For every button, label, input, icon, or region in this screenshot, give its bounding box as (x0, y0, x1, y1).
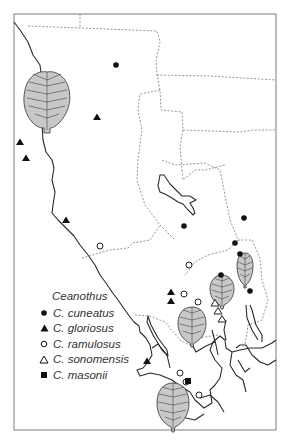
legend-item-cuneatus: C. cuneatus (38, 305, 129, 321)
leaf-icon-large-north (24, 72, 70, 133)
legend-label: C. ramulosus (53, 338, 121, 350)
gloriosus-point (62, 217, 70, 224)
gloriosus-point (16, 139, 24, 146)
ramulosus-point (177, 370, 183, 376)
legend-item-gloriosus: C. gloriosus (38, 321, 129, 337)
gloriosus-point (167, 289, 175, 296)
ramulosus-point (195, 299, 201, 305)
cuneatus-point (218, 272, 224, 278)
legend: Ceanothus C. cuneatus C. gloriosus C. ra… (38, 290, 129, 383)
legend-item-masonii: C. masonii (38, 367, 129, 383)
legend-label: C. cuneatus (53, 307, 114, 319)
leaf-icon-narrow (237, 253, 253, 288)
legend-item-sonomensis: C. sonomensis (38, 352, 129, 368)
legend-label: C. gloriosus (53, 322, 114, 334)
filled-triangle-icon (38, 324, 50, 332)
cuneatus-point (113, 62, 119, 68)
gloriosus-point (167, 298, 175, 305)
open-triangle-icon (38, 355, 50, 364)
cuneatus-point (241, 215, 247, 221)
cuneatus-point (247, 288, 253, 294)
legend-item-ramulosus: C. ramulosus (38, 336, 129, 352)
ramulosus-point (97, 243, 103, 249)
open-circle-icon (38, 340, 50, 348)
leaf-icon-medium (178, 307, 206, 347)
ramulosus-point (196, 392, 202, 398)
cuneatus-point (181, 223, 187, 229)
lake (158, 175, 196, 215)
sonomensis-point (218, 316, 226, 323)
cuneatus-point (232, 240, 238, 246)
ramulosus-point (181, 291, 187, 297)
cuneatus-point (237, 251, 243, 257)
legend-label: C. masonii (53, 369, 107, 381)
filled-square-icon (38, 371, 50, 379)
gloriosus-point (22, 155, 30, 162)
legend-title: Ceanothus (52, 290, 129, 302)
leaf-icon-large-south (157, 383, 189, 432)
filled-circle-icon (38, 309, 50, 317)
legend-label: C. sonomensis (53, 353, 129, 365)
gloriosus-point (93, 114, 101, 121)
masonii-point (185, 378, 191, 384)
ramulosus-point (186, 262, 192, 268)
